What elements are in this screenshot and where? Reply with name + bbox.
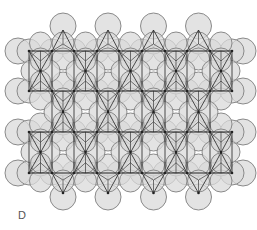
lattice-vertex [118, 50, 121, 53]
lattice-vertex [152, 111, 155, 114]
lattice-vertex [209, 172, 212, 175]
lattice-vertex [175, 70, 178, 73]
lattice-vertex [96, 172, 99, 175]
lattice-vertex [209, 90, 212, 93]
lattice-vertex [231, 131, 234, 134]
lattice-vertex [96, 131, 99, 134]
lattice-vertex [152, 192, 155, 195]
lattice-vertex [231, 50, 234, 53]
lattice-vertex [84, 151, 87, 154]
lattice-vertex [118, 131, 121, 134]
lattice-vertex [231, 90, 234, 93]
lattice-vertex [107, 192, 110, 195]
lattice-vertex [186, 90, 189, 93]
lattice-vertex [141, 50, 144, 53]
close-packed-lattice-diagram [0, 0, 257, 230]
lattice-vertex [129, 151, 132, 154]
lattice-vertex [231, 172, 234, 175]
lattice-vertex [141, 172, 144, 175]
lattice-vertex [51, 131, 54, 134]
lattice-vertex [164, 131, 167, 134]
lattice-vertex [107, 111, 110, 114]
lattice-vertex [96, 90, 99, 93]
lattice-vertex [141, 131, 144, 134]
lattice-vertex [209, 131, 212, 134]
lattice-vertex [164, 90, 167, 93]
lattice-vertex [118, 172, 121, 175]
lattice-vertex [129, 70, 132, 73]
lattice-vertex [96, 50, 99, 53]
lattice-vertex [28, 50, 31, 53]
lattice-vertex [118, 90, 121, 93]
lattice-vertex [28, 172, 31, 175]
lattice-vertex [73, 50, 76, 53]
lattice-vertex [186, 50, 189, 53]
lattice-vertex [28, 131, 31, 134]
lattice-vertex [220, 70, 223, 73]
panel-label: D [18, 209, 26, 221]
lattice-vertex [164, 50, 167, 53]
lattice-vertex [51, 50, 54, 53]
lattice-vertex [73, 131, 76, 134]
lattice-vertex [51, 90, 54, 93]
lattice-vertex [62, 111, 65, 114]
lattice-vertex [209, 50, 212, 53]
lattice-vertex [73, 90, 76, 93]
lattice-vertex [164, 172, 167, 175]
lattice-vertex [62, 192, 65, 195]
lattice-vertex [186, 131, 189, 134]
lattice-vertex [73, 172, 76, 175]
lattice-vertex [186, 172, 189, 175]
lattice-vertex [39, 70, 42, 73]
lattice-vertex [220, 151, 223, 154]
lattice-vertex [28, 90, 31, 93]
lattice-vertex [175, 151, 178, 154]
lattice-vertex [51, 172, 54, 175]
lattice-vertex [197, 111, 200, 114]
sphere-circles [5, 13, 256, 210]
lattice-vertex [84, 70, 87, 73]
lattice-vertex [39, 151, 42, 154]
lattice-vertex [141, 90, 144, 93]
lattice-vertex [197, 192, 200, 195]
